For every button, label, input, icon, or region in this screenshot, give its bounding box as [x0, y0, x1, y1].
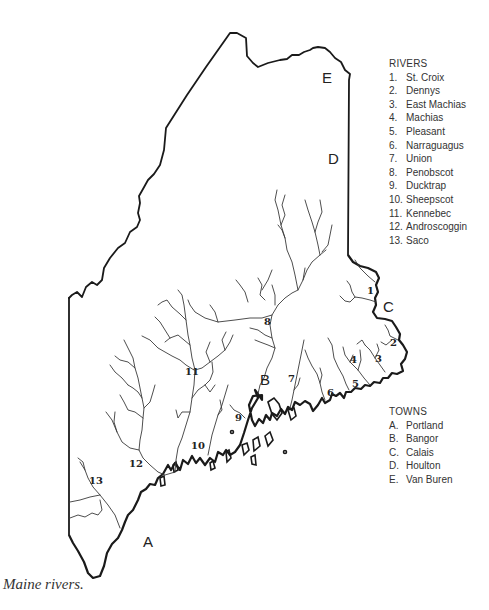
rivers-legend: RIVERS 1.St. Croix 2.Dennys 3.East Machi…: [389, 57, 467, 247]
legend-item: 5.Pleasant: [389, 125, 467, 139]
legend-label: Dennys: [406, 84, 440, 98]
legend-label: Union: [406, 152, 432, 166]
legend-item: 9.Ducktrap: [389, 179, 467, 193]
legend-label: Ducktrap: [406, 179, 446, 193]
town-label-a: A: [143, 533, 153, 550]
legend-item: 12.Androscoggin: [389, 220, 467, 234]
legend-key: 5.: [389, 125, 406, 139]
legend-item: 8.Penobscot: [389, 166, 467, 180]
river-label-3: 3: [375, 353, 382, 364]
town-label-d: D: [328, 150, 339, 167]
legend-key: 7.: [389, 152, 406, 166]
legend-key: 12.: [389, 220, 406, 234]
legend-item: 6.Narraguagus: [389, 139, 467, 153]
legend-label: Van Buren: [406, 473, 453, 487]
legend-item: A.Portland: [389, 419, 453, 433]
legend-key: 2.: [389, 84, 406, 98]
legend-item: 11.Kennebec: [389, 207, 467, 221]
legend-label: Bangor: [406, 432, 438, 446]
legend-key: C.: [389, 446, 406, 460]
legend-label: Kennebec: [406, 207, 451, 221]
legend-label: St. Croix: [406, 71, 444, 85]
legend-label: Pleasant: [406, 125, 445, 139]
river-label-10: 10: [191, 440, 205, 451]
legend-key: 8.: [389, 166, 406, 180]
river-label-11: 11: [185, 366, 199, 377]
legend-key: A.: [389, 419, 406, 433]
legend-key: 1.: [389, 71, 406, 85]
legend-key: 6.: [389, 139, 406, 153]
legend-key: 10.: [389, 193, 406, 207]
river-label-5: 5: [352, 378, 359, 389]
legend-label: Saco: [406, 234, 429, 248]
legend-key: 11.: [389, 207, 406, 221]
river-number-labels: 1 2 3 4 5 6 7 8 9 10 11 12 13: [89, 285, 397, 486]
legend-item: E.Van Buren: [389, 473, 453, 487]
river-label-9: 9: [235, 412, 242, 423]
legend-item: 2.Dennys: [389, 84, 467, 98]
river-label-7: 7: [288, 373, 295, 384]
legend-label: Calais: [406, 446, 434, 460]
towns-legend: TOWNS A.Portland B.Bangor C.Calais D.Hou…: [389, 405, 453, 487]
figure-caption: Maine rivers.: [3, 576, 84, 593]
river-label-1: 1: [367, 285, 374, 296]
state-border: [69, 33, 350, 298]
legend-label: Sheepscot: [406, 193, 453, 207]
legend-key: 13.: [389, 234, 406, 248]
river-label-8: 8: [264, 316, 271, 327]
legend-item: D.Houlton: [389, 459, 453, 473]
legend-item: 10.Sheepscot: [389, 193, 467, 207]
legend-item: B.Bangor: [389, 432, 453, 446]
legend-key: D.: [389, 459, 406, 473]
river-label-2: 2: [390, 337, 397, 348]
rivers-legend-title: RIVERS: [389, 57, 467, 71]
legend-key: 9.: [389, 179, 406, 193]
towns-legend-title: TOWNS: [389, 405, 453, 419]
legend-key: 4.: [389, 111, 406, 125]
river-label-13: 13: [89, 475, 103, 486]
legend-item: 13.Saco: [389, 234, 467, 248]
legend-label: Androscoggin: [406, 220, 467, 234]
legend-key: E.: [389, 473, 406, 487]
river-label-4: 4: [350, 354, 357, 365]
river-st-croix: [340, 296, 376, 302]
legend-key: 3.: [389, 98, 406, 112]
legend-item: 4.Machias: [389, 111, 467, 125]
town-label-c: C: [383, 298, 394, 315]
legend-label: Portland: [406, 419, 443, 433]
legend-label: Penobscot: [406, 166, 453, 180]
river-label-12: 12: [129, 458, 143, 469]
legend-item: 1.St. Croix: [389, 71, 467, 85]
legend-key: B.: [389, 432, 406, 446]
legend-label: Narraguagus: [406, 139, 464, 153]
legend-label: Machias: [406, 111, 443, 125]
river-label-6: 6: [327, 387, 334, 398]
legend-item: 7.Union: [389, 152, 467, 166]
legend-label: East Machias: [406, 98, 466, 112]
legend-item: C.Calais: [389, 446, 453, 460]
legend-item: 3.East Machias: [389, 98, 467, 112]
town-label-e: E: [322, 69, 332, 86]
town-letter-labels: A B C D E: [143, 69, 394, 550]
town-label-b: B: [260, 371, 270, 388]
legend-label: Houlton: [406, 459, 440, 473]
